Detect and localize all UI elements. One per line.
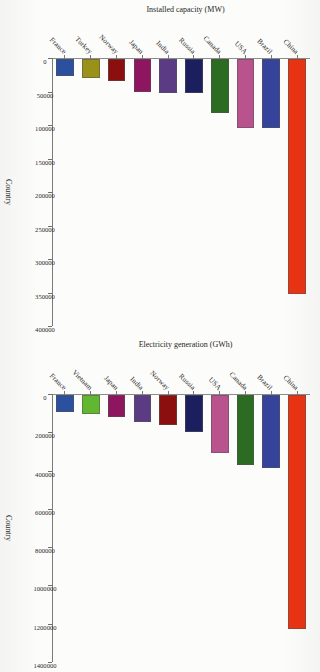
- value-tick-label: 1000000: [33, 585, 56, 592]
- value-tick: [48, 58, 52, 59]
- bar-row: Japan: [130, 59, 155, 326]
- bar-china: [288, 59, 306, 294]
- category-label: Vietnam: [70, 368, 93, 391]
- value-tick-label: 800000: [35, 547, 55, 554]
- value-tick-label: 200000: [35, 432, 55, 439]
- bar-row: USA: [207, 395, 232, 662]
- chart-installed-capacity: Installed capacity (MW) ChinaBrazilUSACa…: [0, 0, 320, 336]
- category-label: India: [129, 375, 145, 391]
- bar-row: China: [285, 395, 310, 662]
- bar-row: Japan: [104, 395, 129, 662]
- category-tick: [90, 391, 91, 395]
- category-label: Canada: [227, 371, 248, 392]
- category-label: Norway: [148, 369, 170, 391]
- category-label: Japan: [102, 374, 120, 392]
- bar-france: [56, 59, 74, 76]
- category-label: France: [48, 36, 68, 56]
- bar-row: France: [53, 59, 78, 326]
- value-tick-label: 400000: [35, 326, 55, 333]
- bar-group: ChinaBrazilCanadaUSARussiaNorwayIndiaJap…: [52, 395, 310, 662]
- bar-india: [159, 59, 177, 93]
- value-tick-label: 1200000: [33, 624, 56, 631]
- bar-usa: [237, 59, 255, 128]
- bar-china: [288, 395, 306, 629]
- category-tick: [142, 55, 143, 59]
- category-tick: [245, 55, 246, 59]
- bar-norway: [159, 395, 177, 425]
- bar-japan: [134, 59, 152, 92]
- bar-canada: [211, 59, 229, 113]
- category-label: France: [48, 372, 68, 392]
- category-tick: [90, 55, 91, 59]
- bar-russia: [185, 395, 203, 432]
- category-tick: [271, 55, 272, 59]
- category-tick: [116, 391, 117, 395]
- category-tick: [193, 391, 194, 395]
- category-label: Brazil: [256, 37, 275, 56]
- bar-row: China: [285, 59, 310, 326]
- bar-france: [56, 395, 74, 412]
- value-tick-label: 100000: [35, 125, 55, 132]
- bar-row: Vietnam: [78, 395, 103, 662]
- category-tick: [219, 391, 220, 395]
- bar-row: USA: [233, 59, 258, 326]
- value-tick-label: 0: [43, 58, 46, 65]
- bar-vietnam: [82, 395, 100, 414]
- bar-row: Brazil: [259, 59, 284, 326]
- bar-brazil: [263, 395, 281, 468]
- value-tick-label: 0: [43, 394, 46, 401]
- category-label: Brazil: [256, 373, 275, 392]
- bar-row: Russia: [182, 395, 207, 662]
- category-tick: [142, 391, 143, 395]
- category-label: Norway: [97, 33, 119, 55]
- bar-row: Canada: [233, 395, 258, 662]
- category-tick: [193, 55, 194, 59]
- category-label: USA: [207, 376, 223, 392]
- value-tick-label: 250000: [35, 226, 55, 233]
- bar-row: Russia: [182, 59, 207, 326]
- bar-india: [134, 395, 152, 422]
- category-label: Russia: [177, 372, 197, 392]
- bar-row: Norway: [156, 395, 181, 662]
- category-label: Japan: [128, 38, 146, 56]
- category-label: China: [282, 38, 300, 56]
- bar-row: France: [53, 395, 78, 662]
- value-tick-label: 150000: [35, 159, 55, 166]
- value-tick-label: 600000: [35, 509, 55, 516]
- chart-panel: Electricity generation (GWh) ChinaBrazil…: [0, 336, 320, 672]
- category-tick: [116, 55, 117, 59]
- category-tick: [245, 391, 246, 395]
- y-axis-title: Electricity generation (GWh): [52, 338, 320, 352]
- value-tick-label: 400000: [35, 471, 55, 478]
- y-axis-title: Installed capacity (MW): [52, 2, 320, 16]
- chart-panel: Installed capacity (MW) ChinaBrazilUSACa…: [0, 0, 320, 336]
- bar-row: Brazil: [259, 395, 284, 662]
- category-label: China: [282, 374, 300, 392]
- scanned-page: Installed capacity (MW) ChinaBrazilUSACa…: [0, 0, 320, 672]
- category-tick: [297, 391, 298, 395]
- chart-electricity-generation: Electricity generation (GWh) ChinaBrazil…: [0, 336, 320, 672]
- bar-group: ChinaBrazilUSACanadaRussiaIndiaJapanNorw…: [52, 59, 310, 326]
- category-label: Turkey: [73, 35, 94, 56]
- bar-row: India: [156, 59, 181, 326]
- bar-row: Turkey: [78, 59, 103, 326]
- bar-row: Canada: [207, 59, 232, 326]
- value-tick-label: 350000: [35, 293, 55, 300]
- category-tick: [64, 391, 65, 395]
- category-label: Russia: [177, 36, 197, 56]
- category-tick: [297, 55, 298, 59]
- bar-usa: [211, 395, 229, 453]
- bar-turkey: [82, 59, 100, 78]
- category-tick: [64, 55, 65, 59]
- category-label: USA: [232, 40, 248, 56]
- category-tick: [168, 391, 169, 395]
- bar-canada: [237, 395, 255, 465]
- category-tick: [271, 391, 272, 395]
- value-tick-label: 200000: [35, 192, 55, 199]
- x-axis-title: Country: [4, 58, 13, 326]
- category-label: Canada: [201, 35, 222, 56]
- bar-russia: [185, 59, 203, 93]
- value-tick-label: 50000: [37, 92, 53, 99]
- value-tick: [48, 394, 52, 395]
- plot-area: ChinaBrazilCanadaUSARussiaNorwayIndiaJap…: [52, 394, 310, 662]
